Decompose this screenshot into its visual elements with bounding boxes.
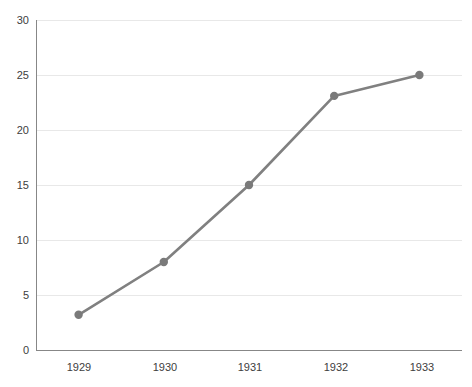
y-tick-labels: 30 25 20 15 10 5 0 [17, 14, 29, 356]
x-tick-label: 1929 [67, 361, 91, 373]
chart-canvas: 30 25 20 15 10 5 0 1929 1930 1931 1932 1… [0, 0, 472, 387]
series-line [79, 75, 420, 315]
series-markers [74, 71, 423, 319]
y-tick-label: 20 [17, 124, 29, 136]
line-chart: 30 25 20 15 10 5 0 1929 1930 1931 1932 1… [0, 0, 472, 387]
data-series [74, 71, 423, 319]
y-tick-label: 15 [17, 179, 29, 191]
x-tick-label: 1931 [238, 361, 262, 373]
x-tick-label: 1932 [324, 361, 348, 373]
x-tick-labels: 1929 1930 1931 1932 1933 [67, 361, 434, 373]
y-tick-label: 5 [23, 289, 29, 301]
data-point [74, 311, 82, 319]
data-point [330, 92, 338, 100]
gridlines [36, 21, 462, 296]
y-tick-label: 0 [23, 344, 29, 356]
y-tick-label: 10 [17, 234, 29, 246]
x-tick-label: 1930 [153, 361, 177, 373]
data-point [415, 71, 423, 79]
data-point [160, 258, 168, 266]
x-tick-label: 1933 [410, 361, 434, 373]
y-tick-label: 30 [17, 14, 29, 26]
y-tick-label: 25 [17, 69, 29, 81]
data-point [245, 181, 253, 189]
